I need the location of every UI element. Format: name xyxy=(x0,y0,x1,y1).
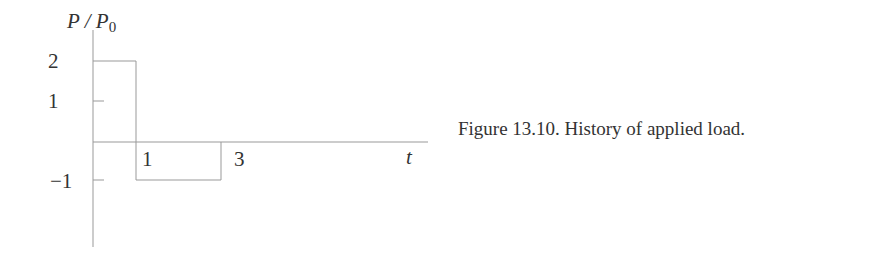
figure-caption: Figure 13.10. History of applied load. xyxy=(458,118,745,140)
x-axis-label: t xyxy=(406,145,413,169)
x-tick-label-3: 3 xyxy=(234,147,245,171)
load-curve xyxy=(93,61,221,180)
y-axis-label: P / P0 xyxy=(66,9,116,35)
load-history-chart: 2 1 −1 1 3 t P / P0 xyxy=(0,0,888,254)
x-tick-label-1: 1 xyxy=(142,147,153,171)
y-tick-label-1: 1 xyxy=(48,89,59,113)
y-tick-label-2: 2 xyxy=(48,49,59,73)
y-tick-label-minus-1: −1 xyxy=(50,169,72,193)
